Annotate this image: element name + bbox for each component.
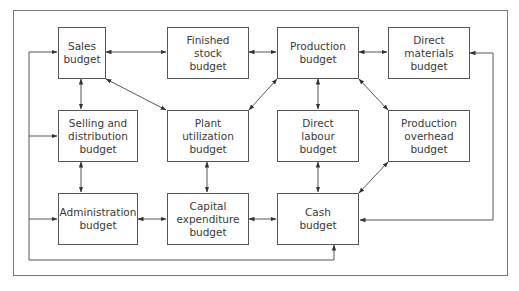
node-direct-labour-budget: Direct labour budget bbox=[277, 110, 359, 162]
edge-plant-production bbox=[249, 79, 277, 110]
edge-sales-plant bbox=[106, 79, 166, 110]
edge-production-overhead bbox=[359, 79, 388, 110]
node-administration-budget: Administration budget bbox=[58, 193, 138, 245]
node-plant-utilization-budget: Plant utilization budget bbox=[167, 110, 249, 162]
node-cash-budget: Cash budget bbox=[277, 193, 359, 245]
node-label: Administration budget bbox=[60, 206, 137, 232]
node-label: Cash budget bbox=[299, 206, 336, 232]
node-label: Direct labour budget bbox=[299, 117, 336, 156]
node-production-overhead-budget: Production overhead budget bbox=[388, 110, 470, 162]
node-label: Finished stock budget bbox=[186, 34, 229, 73]
node-direct-materials-budget: Direct materials budget bbox=[388, 27, 470, 79]
node-label: Capital expenditure budget bbox=[176, 200, 239, 239]
edge-overhead-cash bbox=[359, 162, 388, 193]
node-label: Production overhead budget bbox=[401, 117, 457, 156]
node-sales-budget: Sales budget bbox=[58, 27, 106, 79]
node-finished-stock-budget: Finished stock budget bbox=[167, 27, 249, 79]
node-label: Production budget bbox=[290, 40, 346, 66]
node-label: Direct materials budget bbox=[404, 34, 453, 73]
node-label: Selling and distribution budget bbox=[68, 117, 128, 156]
node-label: Plant utilization budget bbox=[182, 117, 234, 156]
node-label: Sales budget bbox=[63, 40, 100, 66]
node-production-budget: Production budget bbox=[277, 27, 359, 79]
node-selling-distribution-budget: Selling and distribution budget bbox=[58, 110, 138, 162]
node-capital-expenditure-budget: Capital expenditure budget bbox=[167, 193, 249, 245]
